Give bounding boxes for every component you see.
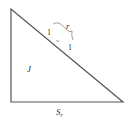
interior-label-j: J (27, 64, 32, 74)
tick-label-right: 1 (68, 43, 72, 52)
middle-mark: ~ (56, 38, 60, 44)
tick-label-left: 1 (47, 28, 51, 37)
base-label: Sr (56, 107, 64, 118)
brace-label-r: r (66, 21, 70, 31)
triangle-diagram: r 1 1 ~ J Sr (0, 0, 132, 119)
base-label-subscript: r (61, 112, 64, 118)
